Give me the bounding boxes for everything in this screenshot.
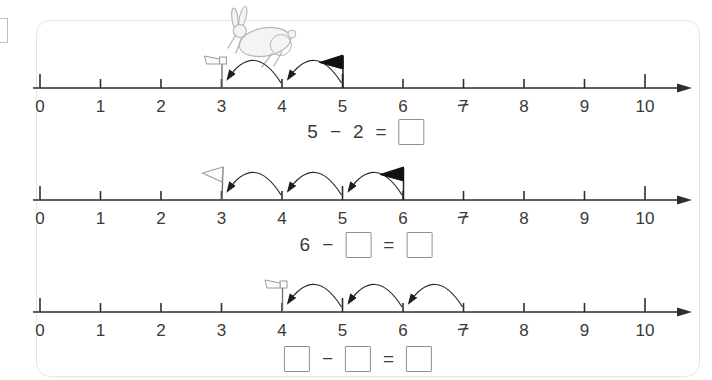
tick-label: 7 — [459, 97, 468, 116]
answer-box[interactable] — [284, 346, 310, 372]
equation-operator: − — [322, 232, 333, 258]
white-flag-icon — [265, 280, 287, 312]
equation-3: −= — [284, 346, 432, 372]
tick-label: 9 — [580, 209, 589, 228]
tick-label: 8 — [519, 209, 528, 228]
axis-arrowhead — [677, 196, 692, 205]
flag-pennant — [203, 167, 224, 182]
equation-operator: = — [383, 346, 394, 372]
tick-label: 3 — [217, 209, 226, 228]
tick-label: 4 — [277, 97, 286, 116]
jump-arc — [228, 172, 282, 195]
equation-1: 5−2= — [307, 119, 424, 145]
tick-label: 1 — [96, 97, 105, 116]
tick-label: 0 — [35, 321, 44, 340]
tick-label: 8 — [519, 321, 528, 340]
tick-label: 7 — [459, 321, 468, 340]
tick-label: 1 — [96, 321, 105, 340]
tick-label: 6 — [398, 321, 407, 340]
tick-label: 1 — [96, 209, 105, 228]
black-flag-icon — [380, 167, 404, 200]
rabbit-image — [228, 6, 296, 67]
flag-top — [220, 57, 227, 64]
equation-operator: = — [376, 119, 387, 145]
jump-arc — [228, 60, 282, 83]
tick-label: 10 — [636, 97, 655, 116]
tick-label: 7 — [459, 209, 468, 228]
equation-operator: − — [330, 119, 341, 145]
tick-label: 5 — [338, 321, 347, 340]
answer-box[interactable] — [345, 232, 371, 258]
tick-label: 8 — [519, 97, 528, 116]
tick-label: 4 — [277, 209, 286, 228]
answer-box[interactable] — [399, 119, 425, 145]
axis-arrowhead — [677, 308, 692, 317]
white-flag-icon — [203, 167, 224, 200]
tick-label: 10 — [636, 209, 655, 228]
tick-label: 2 — [156, 321, 165, 340]
white-flag-icon — [205, 56, 227, 88]
equation-operator: − — [322, 346, 333, 372]
tick-label: 3 — [217, 321, 226, 340]
tick-label: 6 — [398, 209, 407, 228]
flag-pennant — [380, 167, 404, 181]
answer-box[interactable] — [345, 346, 371, 372]
flag-pennant — [205, 56, 220, 64]
tick-label: 6 — [398, 97, 407, 116]
equation-number: 6 — [300, 232, 311, 258]
answer-box[interactable] — [406, 346, 432, 372]
tick-label: 2 — [156, 97, 165, 116]
jump-arc — [409, 284, 463, 307]
jump-arc — [349, 284, 403, 307]
tick-label: 9 — [580, 97, 589, 116]
tick-label: 4 — [277, 321, 286, 340]
tick-label: 9 — [580, 321, 589, 340]
equation-number: 5 — [307, 119, 318, 145]
jump-arc — [288, 172, 342, 195]
flag-pennant — [265, 280, 280, 288]
black-flag-icon — [320, 55, 344, 88]
tick-label: 5 — [338, 209, 347, 228]
equation-2: 6−= — [300, 232, 433, 258]
tick-label: 10 — [636, 321, 655, 340]
rabbit-tail — [288, 30, 296, 38]
flag-top — [280, 281, 287, 288]
answer-box[interactable] — [406, 232, 432, 258]
tick-label: 2 — [156, 209, 165, 228]
jump-arc — [288, 284, 342, 307]
flag-pennant — [320, 55, 344, 69]
equation-number: 2 — [353, 119, 364, 145]
worksheet-svg: 012345678910012345678910012345678910 — [0, 0, 712, 380]
tick-label: 0 — [35, 97, 44, 116]
axis-arrowhead — [677, 84, 692, 93]
tick-label: 3 — [217, 97, 226, 116]
tick-label: 0 — [35, 209, 44, 228]
tick-label: 5 — [338, 97, 347, 116]
equation-operator: = — [383, 232, 394, 258]
